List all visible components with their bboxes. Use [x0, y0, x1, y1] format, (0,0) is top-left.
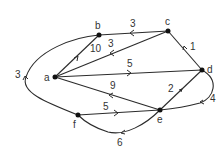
weight-d-e: 4 — [210, 93, 216, 104]
node-a — [53, 75, 58, 80]
edge-e-f — [78, 110, 160, 133]
edge-c-b — [99, 31, 168, 35]
weight-d-c: 1 — [190, 41, 196, 52]
node-b — [97, 33, 102, 38]
node-label-f: f — [73, 119, 76, 130]
node-label-a: a — [44, 72, 50, 83]
node-label-b: b — [95, 20, 101, 31]
node-d — [200, 68, 205, 73]
edge-f-e — [78, 110, 160, 115]
weight-e-f: 6 — [117, 137, 123, 148]
weight-a-b: 10 — [90, 43, 102, 54]
weight-a-d: 5 — [127, 58, 133, 69]
weight-e-d: 2 — [168, 83, 174, 94]
edge-d-c — [168, 31, 202, 70]
graph-diagram: a b c d e f 10 3 3 5 9 1 2 4 5 6 3 — [0, 0, 224, 158]
weight-c-b: 3 — [130, 18, 136, 29]
weight-f-b: 3 — [15, 69, 21, 80]
weight-e-a: 9 — [110, 80, 116, 91]
weight-c-a: 3 — [108, 38, 114, 49]
arrow-d-c-icon — [183, 46, 187, 50]
node-c — [166, 29, 171, 34]
node-f — [76, 113, 81, 118]
weight-f-e: 5 — [103, 101, 109, 112]
node-label-d: d — [207, 64, 213, 75]
node-label-c: c — [165, 16, 170, 27]
node-e — [158, 108, 163, 113]
node-label-e: e — [157, 114, 163, 125]
